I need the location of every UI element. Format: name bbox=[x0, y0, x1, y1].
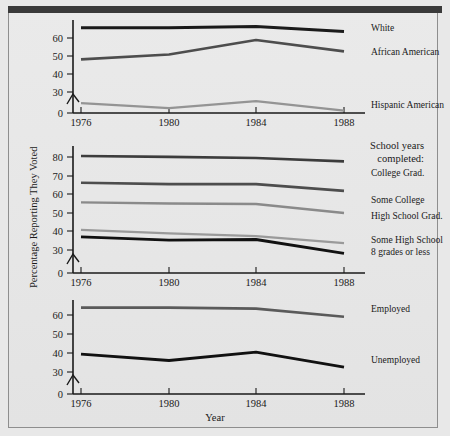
panel1-ytick-50: 50 bbox=[53, 51, 64, 62]
panel2-ytick-50: 50 bbox=[53, 208, 64, 219]
panel2-x-ticks: 1976 1980 1984 1988 bbox=[71, 267, 355, 288]
panel3-y-ticks: 0 30 40 50 60 bbox=[53, 310, 74, 400]
panel1-ytick-60: 60 bbox=[53, 33, 64, 44]
series-line-high-school-grad bbox=[81, 202, 344, 213]
series-line-some-college bbox=[81, 183, 344, 191]
panel3-xtick-1984: 1984 bbox=[246, 398, 268, 409]
series-label-college-grad: College Grad. bbox=[371, 168, 424, 178]
panel3-xtick-1988: 1988 bbox=[334, 398, 355, 409]
series-line-hispanic-american bbox=[81, 101, 344, 111]
series-label-8-grades-or-less: 8 grades or less bbox=[371, 247, 430, 257]
series-label-white: White bbox=[371, 23, 394, 33]
panel1-xtick-1984: 1984 bbox=[246, 117, 268, 128]
panel3-ytick-50: 50 bbox=[53, 329, 64, 340]
panel1-ytick-40: 40 bbox=[53, 69, 64, 80]
panel3-ytick-30: 30 bbox=[53, 367, 64, 378]
legend-header-line2: completed: bbox=[377, 153, 424, 164]
panel2-ytick-60: 60 bbox=[53, 189, 64, 200]
panel-school-years-completed: 0 30 40 50 60 70 80 1976 1980 1984 1988 bbox=[40, 140, 440, 288]
panel1-xtick-1988: 1988 bbox=[334, 117, 355, 128]
figure-canvas: Percentage Reporting They Voted 0 30 40 … bbox=[0, 0, 450, 436]
series-label-high-school-grad: High School Grad. bbox=[371, 211, 443, 221]
panel2-ytick-70: 70 bbox=[53, 171, 64, 182]
panel2-xtick-1976: 1976 bbox=[71, 277, 92, 288]
y-axis-title: Percentage Reporting They Voted bbox=[28, 146, 39, 288]
panel3-xtick-1980: 1980 bbox=[159, 398, 180, 409]
series-line-college-grad bbox=[81, 156, 344, 161]
panel2-ytick-80: 80 bbox=[53, 152, 64, 163]
panel1-x-ticks: 1976 1980 1984 1988 bbox=[71, 107, 355, 128]
figure-top-band bbox=[8, 6, 442, 13]
panel3-xtick-1976: 1976 bbox=[71, 398, 92, 409]
panel-race-ethnicity: 0 30 40 50 60 1976 1980 1984 1988 bbox=[40, 16, 440, 128]
series-line-employed bbox=[81, 308, 344, 317]
panel-employment-status: 0 30 40 50 60 1976 1980 1984 1988 Employ… bbox=[40, 295, 440, 423]
panel1-ytick-30: 30 bbox=[53, 87, 64, 98]
panel3-ytick-40: 40 bbox=[53, 348, 64, 359]
panel1-xtick-1980: 1980 bbox=[159, 117, 180, 128]
panel3-ytick-0: 0 bbox=[58, 389, 63, 400]
series-line-african-american bbox=[81, 40, 344, 59]
series-label-employed: Employed bbox=[371, 304, 410, 314]
panel1-ytick-0: 0 bbox=[58, 108, 63, 119]
series-label-hispanic-american: Hispanic American bbox=[371, 100, 444, 110]
panel2-ytick-40: 40 bbox=[53, 226, 64, 237]
legend-header-line1: School years bbox=[370, 140, 424, 151]
panel2-ytick-30: 30 bbox=[53, 245, 64, 256]
series-label-unemployed: Unemployed bbox=[371, 355, 420, 365]
panel2-ytick-0: 0 bbox=[58, 268, 63, 279]
series-label-african-american: African American bbox=[371, 47, 440, 57]
panel2-xtick-1984: 1984 bbox=[246, 277, 268, 288]
panel3-x-ticks: 1976 1980 1984 1988 bbox=[71, 388, 355, 409]
series-line-unemployed bbox=[81, 352, 344, 367]
panel3-ytick-60: 60 bbox=[53, 310, 64, 321]
panel1-y-ticks: 0 30 40 50 60 bbox=[53, 33, 74, 119]
series-line-white bbox=[81, 26, 344, 31]
series-label-some-high-school: Some High School bbox=[371, 235, 443, 245]
panel2-xtick-1988: 1988 bbox=[334, 277, 355, 288]
panel1-xtick-1976: 1976 bbox=[71, 117, 92, 128]
x-axis-title: Year bbox=[205, 412, 225, 423]
series-label-some-college: Some College bbox=[371, 195, 425, 205]
panel2-xtick-1980: 1980 bbox=[159, 277, 180, 288]
